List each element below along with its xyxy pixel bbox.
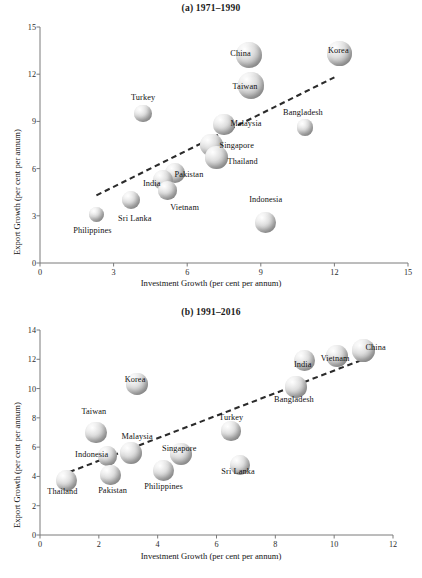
bubble-label-thailand: Thailand (227, 156, 257, 165)
y-tick-label: 2 (22, 501, 36, 510)
bubble-sphere (134, 105, 151, 122)
bubble-label-sri-lanka: Sri Lanka (221, 466, 254, 475)
bubble-sphere (255, 212, 276, 233)
bubble-label-philippines: Philippines (144, 481, 182, 490)
bubble-label-bangladesh: Bangladesh (283, 107, 323, 116)
y-tick-label: 4 (22, 472, 36, 481)
y-tick-label: 10 (22, 384, 36, 393)
y-tick-label: 14 (22, 326, 36, 335)
y-tick-label: 0 (22, 531, 36, 540)
x-tick-label: 3 (112, 268, 116, 277)
x-tick-label: 0 (38, 268, 42, 277)
bubble-sphere (297, 119, 313, 135)
y-tick-label: 15 (22, 23, 36, 32)
x-tick-label: 12 (330, 268, 338, 277)
x-tick-label: 10 (330, 540, 338, 549)
bubble-sphere (122, 191, 140, 209)
bubble-label-bangladesh: Bangladesh (274, 395, 314, 404)
bubble-philippines (89, 207, 104, 222)
panel-a-y-axis-title: Export Growth (per cent per annum) (12, 129, 22, 255)
panel-b-plot-area: 02468101202468101214ChinaVietnamIndiaBan… (0, 290, 422, 578)
bubble-sphere (158, 181, 176, 199)
bubble-label-india: India (294, 359, 312, 368)
bubble-pakistan (100, 465, 120, 485)
axes-and-trendline (0, 290, 422, 578)
bubble-label-sri-lanka: Sri Lanka (118, 214, 151, 223)
y-tick-label: 12 (22, 355, 36, 364)
x-tick-label: 6 (214, 540, 218, 549)
bubble-label-pakistan: Pakistan (98, 485, 127, 494)
bubble-label-vietnam: Vietnam (170, 202, 199, 211)
y-tick-label: 0 (22, 259, 36, 268)
bubble-label-singapore: Singapore (219, 141, 254, 150)
x-tick-label: 12 (389, 540, 397, 549)
bubble-turkey (221, 421, 241, 441)
bubble-turkey (134, 105, 151, 122)
bubble-label-indonesia: Indonesia (249, 195, 282, 204)
bubble-label-malaysia: Malaysia (122, 432, 153, 441)
bubble-sphere (153, 460, 174, 481)
y-tick-label: 12 (22, 70, 36, 79)
bubble-label-singapore: Singapore (162, 444, 197, 453)
bubble-label-taiwan: Taiwan (233, 82, 258, 91)
x-tick-label: 0 (38, 540, 42, 549)
x-tick-label: 8 (273, 540, 277, 549)
chart-panel-b: (b) 1991–2016 02468101202468101214ChinaV… (0, 290, 422, 578)
bubble-sphere (89, 207, 104, 222)
bubble-label-korea: Korea (328, 45, 349, 54)
bubble-label-malaysia: Malaysia (230, 118, 261, 127)
bubble-label-turkey: Turkey (219, 413, 243, 422)
bubble-label-pakistan: Pakistan (174, 170, 203, 179)
bubble-taiwan (85, 422, 106, 443)
x-tick-label: 15 (404, 268, 412, 277)
panel-b-y-axis-title: Export Growth (per cent per annum) (12, 402, 22, 528)
x-tick-label: 4 (156, 540, 160, 549)
bubble-label-indonesia: Indonesia (75, 449, 108, 458)
y-tick-label: 8 (22, 413, 36, 422)
bubble-thailand (205, 146, 228, 169)
chart-panel-a: (a) 1971–1990 0369121503691215ChinaTaiwa… (0, 0, 422, 290)
bubble-sphere (100, 465, 120, 485)
bubble-vietnam (158, 181, 176, 199)
bubble-label-taiwan: Taiwan (81, 406, 106, 415)
bubble-label-thailand: Thailand (47, 486, 77, 495)
bubble-bangladesh (297, 119, 313, 135)
bubble-label-vietnam: Vietnam (321, 354, 350, 363)
bubble-philippines (153, 460, 174, 481)
x-tick-label: 6 (185, 268, 189, 277)
x-tick-label: 2 (97, 540, 101, 549)
panel-b-x-axis-title: Investment Growth (per cent per annum) (0, 551, 422, 561)
bubble-sphere (85, 422, 106, 443)
y-tick-label: 9 (22, 117, 36, 126)
bubble-label-china: China (365, 342, 385, 351)
bubble-label-korea: Korea (125, 375, 146, 384)
panel-a-plot-area: 0369121503691215ChinaTaiwanKoreaTurkeyMa… (0, 0, 422, 290)
bubble-label-turkey: Turkey (131, 92, 155, 101)
bubble-label-china: China (230, 49, 250, 58)
bubble-sphere (221, 421, 241, 441)
y-tick-label: 6 (22, 164, 36, 173)
y-tick-label: 6 (22, 443, 36, 452)
bubble-sri-lanka (122, 191, 140, 209)
panel-a-x-axis-title: Investment Growth (per cent per annum) (0, 278, 422, 288)
y-tick-label: 3 (22, 211, 36, 220)
bubble-chart-figure: (a) 1971–1990 0369121503691215ChinaTaiwa… (0, 0, 422, 578)
bubble-indonesia (255, 212, 276, 233)
x-tick-label: 9 (259, 268, 263, 277)
bubble-sphere (205, 146, 228, 169)
bubble-label-india: India (143, 178, 161, 187)
bubble-label-philippines: Philippines (73, 226, 111, 235)
